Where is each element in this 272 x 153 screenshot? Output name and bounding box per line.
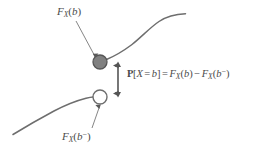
lower-branch-curve xyxy=(13,97,93,135)
upper-label-leader-line xyxy=(76,21,95,56)
lower-label-F: F xyxy=(62,130,69,142)
lower-label-close-paren: ) xyxy=(87,130,91,142)
equation-minus: − xyxy=(193,68,202,79)
lower-marker-label: FX(b−) xyxy=(62,131,91,144)
upper-branch-curve xyxy=(107,14,186,60)
upper-label-close-paren: ) xyxy=(78,5,82,17)
jump-arrow-head-top xyxy=(115,62,121,68)
jump-equation-label: P[X=b]=FX(b)−FX(b−) xyxy=(127,68,229,81)
open-marker xyxy=(93,90,107,104)
upper-label-F: F xyxy=(57,5,64,17)
equation-equals-inner: = xyxy=(143,68,152,79)
equation-term2-close-paren: ) xyxy=(226,68,230,79)
cdf-jump-figure: FX(b) FX(b−) P[X=b]=FX(b)−FX(b−) xyxy=(0,0,272,153)
equation-variable: X xyxy=(136,68,142,79)
filled-marker xyxy=(93,55,107,69)
upper-marker-label: FX(b) xyxy=(57,6,81,19)
lower-label-leader-line xyxy=(92,107,100,129)
jump-arrow-head-bottom xyxy=(115,92,121,98)
equation-bracket-close: ] xyxy=(157,68,161,79)
